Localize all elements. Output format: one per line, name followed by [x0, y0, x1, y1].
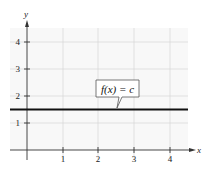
function-label: f(x) = c	[101, 83, 134, 96]
y-axis-arrow-icon	[25, 20, 29, 27]
y-tick-3: 3	[16, 64, 21, 74]
x-tick-4: 4	[168, 154, 173, 164]
x-tick-1: 1	[61, 154, 66, 164]
x-axis-label: x	[196, 145, 201, 155]
y-tick-2: 2	[16, 91, 21, 101]
x-axis-arrow-icon	[189, 148, 196, 152]
y-tick-4: 4	[16, 37, 21, 47]
x-tick-3: 3	[132, 154, 137, 164]
chart: 1 2 3 4 4 3 2 1 y x f(x) = c	[0, 0, 205, 177]
y-axis-label: y	[23, 9, 28, 19]
x-tick-2: 2	[96, 154, 101, 164]
y-tick-1: 1	[16, 118, 21, 128]
